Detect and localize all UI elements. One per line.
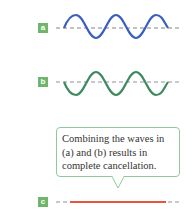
wave-diagram xyxy=(0,0,196,212)
callout-pointer xyxy=(112,177,124,189)
wave-b xyxy=(64,72,168,95)
callout-box: Combining the waves in (a) and (b) resul… xyxy=(56,127,180,177)
callout-line-1: Combining the waves in xyxy=(62,132,174,146)
wave-a xyxy=(64,15,168,38)
callout-line-2: (a) and (b) results in xyxy=(62,146,174,160)
callout-line-3: complete cancellation. xyxy=(62,159,174,173)
